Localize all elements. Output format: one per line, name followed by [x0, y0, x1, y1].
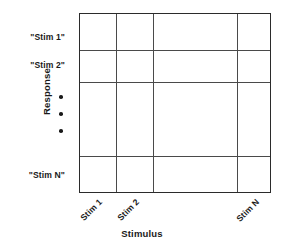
grid-horizontal-line [80, 82, 270, 83]
confusion-matrix-figure: Response "Stim 1" "Stim 2" "Stim N" Stim… [0, 0, 284, 247]
grid-vertical-line [237, 14, 238, 192]
matrix-grid [79, 13, 271, 193]
y-tick-label-stim-2: "Stim 2" [0, 60, 65, 70]
y-tick-label-stim-n: "Stim N" [0, 170, 65, 180]
grid-horizontal-line [80, 156, 270, 157]
ellipsis-dot [59, 112, 63, 116]
ellipsis-dot [59, 95, 63, 99]
grid-vertical-line [153, 14, 154, 192]
x-axis-title: Stimulus [0, 228, 284, 239]
x-tick-label-stim-n: Stim N [212, 197, 261, 246]
y-axis-title: Response [41, 32, 52, 152]
grid-horizontal-line [80, 50, 270, 51]
grid-vertical-line [116, 14, 117, 192]
y-tick-label-stim-1: "Stim 1" [0, 32, 65, 42]
vertical-ellipsis [56, 95, 66, 133]
ellipsis-dot [59, 129, 63, 133]
